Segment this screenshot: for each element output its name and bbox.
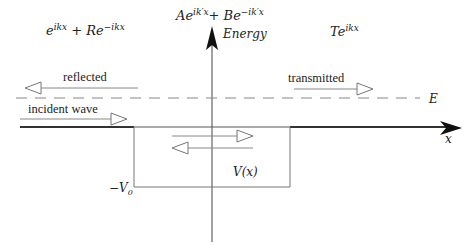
open-triangle-right-icon xyxy=(111,113,127,125)
left-wavefunction: eikx + Re−ikx xyxy=(46,22,125,38)
x-axis-label: x xyxy=(445,132,452,146)
transmitted-label: transmitted xyxy=(288,71,345,85)
energy-axis xyxy=(206,26,218,242)
reflected-label: reflected xyxy=(63,70,107,84)
square-well-diagram: eikx + Re−ikx Aeik′x+ Be−ik′x Energy Tei… xyxy=(0,0,476,251)
incident-wave-label: incident wave xyxy=(28,102,98,116)
well-depth-label: −V0 xyxy=(109,181,133,197)
open-triangle-left-icon xyxy=(25,82,41,94)
middle-wavefunction: Aeik′x+ Be−ik′x xyxy=(175,7,264,23)
open-triangle-right-icon xyxy=(357,83,373,95)
right-wavefunction: Teikx xyxy=(330,23,359,39)
open-triangle-right-icon xyxy=(237,130,253,142)
potential-label: V(x) xyxy=(233,165,258,179)
open-triangle-left-icon xyxy=(172,142,188,154)
energy-axis-label: Energy xyxy=(222,27,267,41)
energy-level-label: E xyxy=(428,92,438,106)
